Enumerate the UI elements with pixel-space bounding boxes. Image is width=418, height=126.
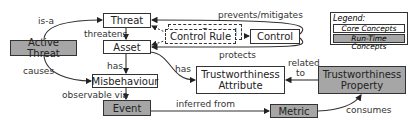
legend-title: Legend:	[333, 14, 365, 23]
edge-label-related: related	[288, 58, 320, 68]
edge-label-to: to	[296, 68, 305, 78]
misbehaviour-node: Misbehaviour	[92, 74, 158, 88]
legend-runtime-concepts: Run-Time Concepts	[333, 34, 405, 43]
edge-label-observable-via: observable via	[62, 90, 128, 100]
edge-label-protects: protects	[219, 50, 256, 60]
legend: Legend: Core Concepts Run-Time Concepts	[330, 12, 408, 45]
active-threat-label: Active Threat	[11, 37, 76, 59]
asset-label: Asset	[113, 42, 140, 53]
edge-label-has-attribute: has	[175, 64, 191, 74]
asset-node: Asset	[103, 40, 151, 54]
edge-label-has-misbehaviour: has	[107, 61, 123, 71]
control-label: Control	[257, 31, 293, 42]
trustworthiness-property-label: Trustworthiness Property	[323, 69, 402, 91]
edge-label-threatens: threatens	[84, 29, 127, 39]
edge-label-causes: causes	[23, 66, 54, 76]
control-node: Control	[250, 29, 300, 44]
metric-node: Metric	[270, 104, 318, 118]
threat-node: Threat	[103, 13, 151, 28]
event-label: Event	[113, 103, 142, 114]
edge-label-inferred-from: inferred from	[176, 99, 235, 109]
trustworthiness-property-node: Trustworthiness Property	[318, 66, 406, 94]
edge-label-is-a: is-a	[38, 16, 54, 26]
edge-label-prevents-mitigates: prevents/mitigates	[218, 10, 303, 20]
misbehaviour-label: Misbehaviour	[92, 76, 159, 87]
metric-label: Metric	[278, 106, 309, 117]
edge-label-consumes: consumes	[346, 105, 392, 115]
event-node: Event	[103, 100, 151, 116]
control-rule-node: Control Rule	[165, 29, 236, 44]
trustworthiness-attribute-label: Trustworthiness Attribute	[201, 69, 280, 91]
control-rule-label: Control Rule	[170, 31, 231, 42]
trustworthiness-attribute-node: Trustworthiness Attribute	[196, 66, 285, 94]
threat-label: Threat	[111, 15, 144, 26]
legend-core-concepts: Core Concepts	[333, 24, 405, 33]
active-threat-node: Active Threat	[10, 40, 77, 56]
